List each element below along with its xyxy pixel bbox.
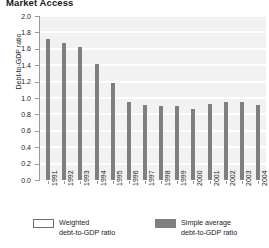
x-tick-mark xyxy=(193,181,194,184)
gridline xyxy=(40,163,266,165)
y-tick-mark xyxy=(35,16,39,17)
gridline xyxy=(40,81,266,83)
x-tick-mark xyxy=(129,181,130,184)
x-tick-label: 1995 xyxy=(116,170,123,186)
y-tick-mark xyxy=(35,32,39,33)
plot-area xyxy=(40,16,266,180)
x-tick-mark xyxy=(113,181,114,184)
x-tick-label: 1999 xyxy=(180,170,187,186)
y-tick-mark xyxy=(35,114,39,115)
bar xyxy=(159,106,163,180)
x-tick-mark xyxy=(80,181,81,184)
x-tick-label: 2002 xyxy=(229,170,236,186)
chart-figure: Market Access Debt-to-GDP ratio 0.00.20.… xyxy=(0,0,269,248)
x-tick-label: 1991 xyxy=(51,170,58,186)
x-tick-label: 2003 xyxy=(245,170,252,186)
x-tick-mark xyxy=(177,181,178,184)
legend-label-line1: Simple average xyxy=(181,218,237,228)
legend-label-line2: debt-to-GDP ratio xyxy=(59,228,115,238)
x-tick-mark xyxy=(226,181,227,184)
chart-legend: Weighteddebt-to-GDP ratioSimple averaged… xyxy=(33,218,265,246)
y-tick-mark xyxy=(35,82,39,83)
legend-label-line1: Weighted xyxy=(59,218,115,228)
bar xyxy=(208,104,212,180)
y-tick-label: 0.8 xyxy=(7,111,31,118)
x-tick-label: 2004 xyxy=(261,170,268,186)
x-tick-mark xyxy=(64,181,65,184)
gridline xyxy=(40,16,266,17)
y-tick-mark xyxy=(35,49,39,50)
y-tick-mark xyxy=(35,180,39,181)
y-tick-label: 1.4 xyxy=(7,62,31,69)
bar xyxy=(240,102,244,180)
gridline xyxy=(40,31,266,33)
y-tick-label: 1.6 xyxy=(7,45,31,52)
bar xyxy=(62,43,66,180)
x-tick-mark xyxy=(48,181,49,184)
y-tick-label: 0.2 xyxy=(7,160,31,167)
x-tick-mark xyxy=(145,181,146,184)
bar xyxy=(175,106,179,180)
y-tick-label: 1.8 xyxy=(7,29,31,36)
gridline xyxy=(40,64,266,66)
y-axis-spine xyxy=(39,16,40,181)
x-tick-label: 1994 xyxy=(100,170,107,186)
legend-swatch xyxy=(155,219,176,228)
gridline xyxy=(40,146,266,148)
legend-label: Weighteddebt-to-GDP ratio xyxy=(59,218,115,237)
gridline xyxy=(40,97,266,99)
x-tick-mark xyxy=(242,181,243,184)
page-title: Market Access xyxy=(6,0,74,8)
bar xyxy=(95,64,99,180)
x-tick-label: 1998 xyxy=(164,170,171,186)
x-tick-label: 2001 xyxy=(213,170,220,186)
x-tick-label: 1992 xyxy=(67,170,74,186)
y-tick-mark xyxy=(35,164,39,165)
x-tick-mark xyxy=(210,181,211,184)
y-tick-label: 2.0 xyxy=(7,13,31,20)
legend-label-line2: debt-to-GDP ratio xyxy=(181,228,237,238)
x-tick-mark xyxy=(97,181,98,184)
y-tick-label: 0.0 xyxy=(7,177,31,184)
bar xyxy=(78,47,82,180)
x-tick-label: 2000 xyxy=(196,170,203,186)
gridline xyxy=(40,130,266,132)
legend-entry[interactable]: Simple averagedebt-to-GDP ratio xyxy=(155,218,263,246)
x-tick-mark xyxy=(161,181,162,184)
legend-swatch xyxy=(33,219,54,228)
x-tick-label: 1997 xyxy=(148,170,155,186)
y-tick-mark xyxy=(35,98,39,99)
bar xyxy=(111,83,115,180)
x-tick-label: 1993 xyxy=(83,170,90,186)
legend-entry[interactable]: Weighteddebt-to-GDP ratio xyxy=(33,218,141,246)
y-tick-label: 1.2 xyxy=(7,78,31,85)
gridline xyxy=(40,48,266,50)
y-tick-mark xyxy=(35,65,39,66)
bar xyxy=(127,102,131,180)
bar xyxy=(256,105,260,180)
gridline xyxy=(40,113,266,115)
bar xyxy=(224,102,228,180)
x-tick-label: 1996 xyxy=(132,170,139,186)
y-tick-mark xyxy=(35,131,39,132)
y-tick-label: 1.0 xyxy=(7,95,31,102)
y-tick-mark xyxy=(35,147,39,148)
y-tick-label: 0.4 xyxy=(7,144,31,151)
bar xyxy=(191,109,195,180)
y-tick-label: 0.6 xyxy=(7,127,31,134)
x-tick-mark xyxy=(258,181,259,184)
bar xyxy=(143,105,147,180)
bar xyxy=(46,39,50,180)
legend-label: Simple averagedebt-to-GDP ratio xyxy=(181,218,237,237)
